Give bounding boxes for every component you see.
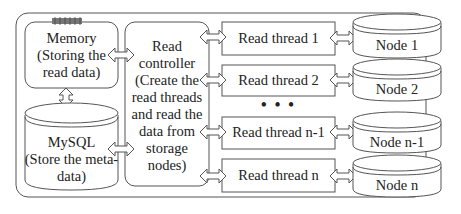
controller-line: and read the xyxy=(125,106,209,123)
thread-label-2: Read thread 2 xyxy=(222,72,335,89)
node-label-2: Node 2 xyxy=(353,81,441,98)
controller-line: (Create the xyxy=(125,72,209,89)
node-label-n-1: Node n-1 xyxy=(353,134,441,151)
thread-label-n-1: Read thread n-1 xyxy=(222,124,335,141)
thread-label-n: Read thread n xyxy=(222,167,335,184)
mysql-desc-line2: data) xyxy=(23,168,120,185)
controller-line: storage xyxy=(125,140,209,157)
controller-line: Read xyxy=(125,38,209,55)
controller-line: read threads xyxy=(125,89,209,106)
node-label-1: Node 1 xyxy=(353,37,441,54)
memory-chip-icon xyxy=(52,17,82,25)
mysql-desc-line1: (Store the meta- xyxy=(23,151,120,168)
mysql-label: MySQL (Store the meta- data) xyxy=(23,134,120,185)
ellipsis: • • • xyxy=(222,96,335,113)
memory-desc-line2: read data) xyxy=(25,64,118,81)
read-controller-label: Read controller (Create the read threads… xyxy=(125,38,209,174)
thread-label-1: Read thread 1 xyxy=(222,30,335,47)
controller-line: nodes) xyxy=(125,157,209,174)
mysql-title: MySQL xyxy=(23,134,120,151)
node-label-n: Node n xyxy=(353,177,441,194)
memory-title: Memory xyxy=(25,30,118,47)
memory-label: Memory (Storing the read data) xyxy=(25,30,118,81)
controller-line: controller xyxy=(125,55,209,72)
controller-line: data from xyxy=(125,123,209,140)
memory-desc-line1: (Storing the xyxy=(25,47,118,64)
